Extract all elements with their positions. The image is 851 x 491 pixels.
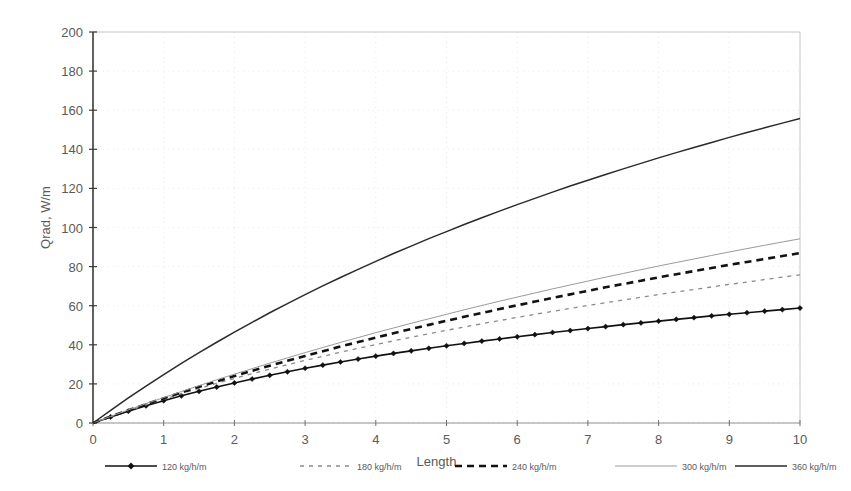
x-tick-label: 5 <box>443 432 450 447</box>
x-tick-label: 2 <box>231 432 238 447</box>
y-tick-label: 120 <box>61 181 83 196</box>
x-tick-label: 10 <box>793 432 807 447</box>
legend-swatch-marker <box>128 463 135 470</box>
series-marker <box>532 332 537 337</box>
series-marker <box>585 326 590 331</box>
series-marker <box>568 328 573 333</box>
x-tick-label: 1 <box>160 432 167 447</box>
line-chart: 020406080100120140160180200012345678910L… <box>0 0 851 491</box>
series-marker <box>373 354 378 359</box>
series-marker <box>391 351 396 356</box>
legend-label: 240 kg/h/m <box>512 462 557 472</box>
series-marker <box>497 336 502 341</box>
x-tick-label: 8 <box>655 432 662 447</box>
series-marker <box>267 373 272 378</box>
series-marker <box>320 363 325 368</box>
y-tick-label: 20 <box>69 377 83 392</box>
y-tick-label: 40 <box>69 338 83 353</box>
series-marker <box>356 356 361 361</box>
series-marker <box>249 376 254 381</box>
series-marker <box>214 384 219 389</box>
y-tick-label: 60 <box>69 299 83 314</box>
legend-item-300-kg-h-m[interactable]: 300 kg/h/m <box>615 462 727 472</box>
x-tick-label: 6 <box>514 432 521 447</box>
x-tick-label: 9 <box>726 432 733 447</box>
series-marker <box>479 338 484 343</box>
legend-label: 360 kg/h/m <box>792 462 837 472</box>
series-marker <box>303 366 308 371</box>
x-axis-title: Length <box>417 454 457 469</box>
y-tick-label: 180 <box>61 64 83 79</box>
y-tick-label: 160 <box>61 103 83 118</box>
series-marker <box>409 348 414 353</box>
y-tick-label: 200 <box>61 25 83 40</box>
legend-item-120-kg-h-m[interactable]: 120 kg/h/m <box>105 462 207 472</box>
legend-label: 180 kg/h/m <box>357 462 402 472</box>
series-marker <box>550 330 555 335</box>
series-marker <box>780 307 785 312</box>
x-tick-label: 0 <box>89 432 96 447</box>
series-marker <box>444 343 449 348</box>
series-marker <box>656 319 661 324</box>
series-marker <box>674 317 679 322</box>
series-marker <box>338 359 343 364</box>
legend-label: 120 kg/h/m <box>162 462 207 472</box>
legend-label: 300 kg/h/m <box>682 462 727 472</box>
series-marker <box>515 334 520 339</box>
series-marker <box>285 369 290 374</box>
series-marker <box>797 305 802 310</box>
y-tick-label: 80 <box>69 260 83 275</box>
series-marker <box>762 309 767 314</box>
series-marker <box>709 313 714 318</box>
y-tick-label: 0 <box>76 416 83 431</box>
y-tick-label: 100 <box>61 221 83 236</box>
legend-item-180-kg-h-m[interactable]: 180 kg/h/m <box>300 462 402 472</box>
series-marker <box>462 341 467 346</box>
chart-figure: 020406080100120140160180200012345678910L… <box>0 0 851 491</box>
series-marker <box>691 315 696 320</box>
series-marker <box>603 324 608 329</box>
series-marker <box>621 322 626 327</box>
legend-item-360-kg-h-m[interactable]: 360 kg/h/m <box>735 462 837 472</box>
series-line-120-kg-h-m <box>93 308 800 423</box>
series-marker <box>638 320 643 325</box>
x-tick-label: 3 <box>301 432 308 447</box>
series-marker <box>232 380 237 385</box>
y-tick-label: 140 <box>61 142 83 157</box>
x-tick-label: 4 <box>372 432 379 447</box>
series-marker <box>727 312 732 317</box>
series-marker <box>426 346 431 351</box>
legend-item-240-kg-h-m[interactable]: 240 kg/h/m <box>455 462 557 472</box>
x-tick-label: 7 <box>584 432 591 447</box>
y-axis-title: Qrad, W/m <box>38 186 53 249</box>
series-marker <box>744 310 749 315</box>
